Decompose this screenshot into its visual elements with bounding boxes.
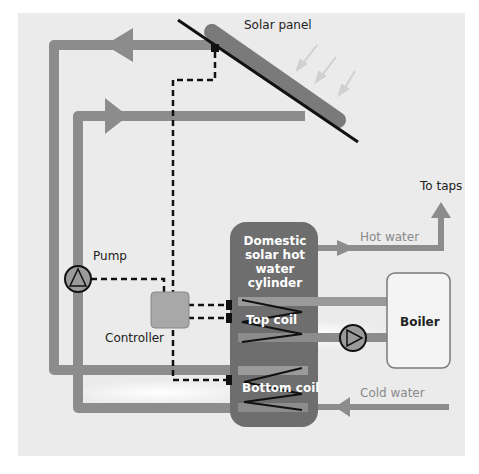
solar-coil-pipe	[238, 366, 308, 375]
controller	[151, 292, 189, 328]
boiler-pump-icon	[340, 325, 366, 351]
boiler-return-pipe	[238, 333, 390, 342]
boiler-label: Boiler	[400, 315, 440, 329]
cold-water-arrow	[335, 397, 350, 417]
sunlight-arrows-icon	[297, 45, 355, 95]
to-taps-arrow	[431, 202, 451, 218]
flow-arrow-right	[105, 98, 128, 134]
flow-arrow-left	[105, 28, 133, 62]
bottom-coil-label: Bottom coil	[242, 381, 319, 395]
solar-panel	[178, 20, 358, 142]
solar-coil-pipe-lower	[238, 403, 308, 412]
solar-pump-icon	[65, 266, 91, 292]
top-coil-label: Top coil	[246, 313, 297, 327]
hot-water-arrow	[337, 240, 355, 256]
hot-water-label: Hot water	[360, 230, 419, 244]
tank-label: Domestic solar hot water cylinder	[232, 234, 318, 290]
to-taps-label: To taps	[420, 179, 462, 193]
cold-water-label: Cold water	[360, 386, 425, 400]
glow	[70, 380, 250, 405]
pump-label: Pump	[93, 249, 127, 263]
controller-label: Controller	[105, 331, 164, 345]
solar-panel-label: Solar panel	[244, 18, 312, 32]
